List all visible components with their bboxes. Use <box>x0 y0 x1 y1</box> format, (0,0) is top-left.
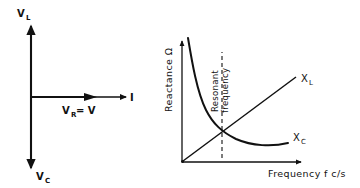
vr-label-suffix: = V <box>76 105 96 116</box>
resonant-frequency-label-line1: Resonant <box>210 70 220 112</box>
figure-canvas: V L V C V R = V I <box>0 0 360 188</box>
vr-label-main: V <box>62 105 70 116</box>
figure-root: V L V C V R = V I <box>0 0 360 188</box>
vc-label-subscript: C <box>45 177 50 185</box>
vc-label: V C <box>36 171 50 185</box>
xc-series-label: X C <box>293 132 306 146</box>
xc-series-label-subscript: C <box>301 138 306 146</box>
xl-series-label-main: X <box>301 73 308 84</box>
xl-series-label-subscript: L <box>309 79 313 87</box>
vr-equals-v-label: V R = V <box>62 105 96 119</box>
resonant-frequency-label-line2: frequency <box>220 68 230 113</box>
vl-label-subscript: L <box>26 14 31 22</box>
xc-series-label-main: X <box>293 132 300 143</box>
xl-series-line <box>183 77 296 161</box>
phasor-diagram: V L V C V R = V I <box>17 8 134 185</box>
current-axis-label: I <box>130 92 134 103</box>
xc-series-curve <box>188 38 288 145</box>
reactance-frequency-chart: Reactance Ω Frequency f c/s Resonant fre… <box>163 38 346 179</box>
vc-label-main: V <box>36 171 44 182</box>
vl-label: V L <box>17 8 31 22</box>
y-axis-label: Reactance Ω <box>163 48 174 112</box>
vl-label-main: V <box>17 8 25 19</box>
xl-series-label: X L <box>301 73 313 87</box>
x-axis-label: Frequency f c/s <box>268 168 346 179</box>
